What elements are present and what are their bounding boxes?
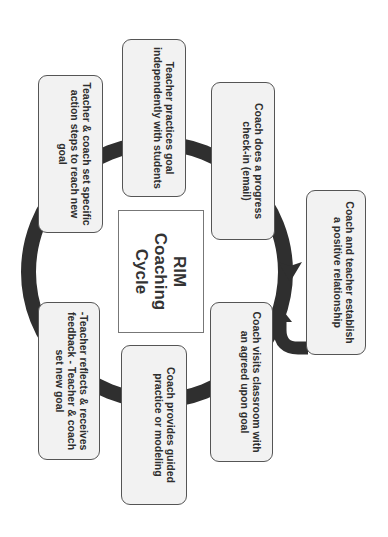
- step-visit-classroom: Coach visits classroom with an agreed up…: [210, 302, 273, 462]
- title-line-1: RIM: [171, 233, 190, 310]
- entry-arrow-shaft: [280, 322, 308, 348]
- step-label: Coach provides guided practice or modeli…: [153, 352, 177, 498]
- step-establish-relationship: Coach and teacher establish a positive r…: [306, 190, 366, 355]
- step-reflect-feedback: -Teacher reflects & receives feedback - …: [38, 302, 100, 460]
- step-progress-checkin: Coach does a progress check-in (email): [211, 82, 275, 240]
- title-line-3: Cycle: [133, 233, 152, 310]
- step-label: Teacher & coach set specific action step…: [57, 82, 93, 226]
- title-line-2: Coaching: [152, 233, 171, 310]
- rim-coaching-cycle-diagram: RIM Coaching Cycle Coach and teacher est…: [0, 0, 388, 537]
- step-label: Teacher practices goal independently wit…: [152, 46, 176, 190]
- step-label: Coach and teacher establish a positive r…: [332, 197, 356, 348]
- step-label: Coach does a progress check-in (email): [241, 89, 265, 233]
- step-guided-practice: Coach provides guided practice or modeli…: [121, 345, 187, 505]
- step-practice-independently: Teacher practices goal independently wit…: [122, 39, 186, 197]
- center-title-box: RIM Coaching Cycle: [118, 210, 204, 333]
- step-label: Coach visits classroom with an agreed up…: [239, 309, 263, 455]
- step-label: -Teacher reflects & receives feedback - …: [54, 309, 90, 453]
- step-action-steps: Teacher & coach set specific action step…: [38, 75, 103, 233]
